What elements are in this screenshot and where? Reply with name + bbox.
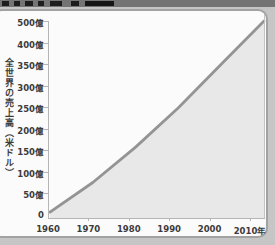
y-axis-tick — [44, 86, 48, 87]
x-axis-tick — [169, 218, 170, 221]
y-axis-tick — [44, 172, 48, 173]
y-axis-label: 0 — [14, 210, 44, 220]
y-axis-label: 150億 — [14, 145, 44, 157]
screenshot-stage: 全世界の売上高（米ドル） 500億400億350億300億250億200億150… — [0, 0, 275, 245]
y-axis-tick — [44, 150, 48, 151]
y-axis-label: 500億 — [14, 16, 44, 28]
x-axis-tick — [129, 218, 130, 221]
y-axis-label: 250億 — [14, 102, 44, 114]
clipped-header-strip — [0, 0, 275, 7]
y-axis-label: 100億 — [14, 167, 44, 179]
x-axis-label: 1980 — [109, 224, 149, 234]
y-axis-tick — [44, 21, 48, 22]
y-axis-tick — [44, 107, 48, 108]
y-axis-tick — [44, 64, 48, 65]
y-axis-label: 300億 — [14, 81, 44, 93]
x-axis-label: 1990 — [149, 224, 189, 234]
x-axis-tick — [250, 218, 251, 221]
y-axis-label: 350億 — [14, 59, 44, 71]
x-axis-label: 1960 — [28, 224, 68, 234]
y-axis-label: 50億 — [14, 188, 44, 200]
x-axis-label: 1970 — [68, 224, 108, 234]
x-axis-line — [48, 218, 265, 219]
x-axis-label: 2010年 — [230, 224, 270, 236]
y-axis-label: 200億 — [14, 124, 44, 136]
y-axis-tick — [44, 43, 48, 44]
y-axis-tick — [44, 193, 48, 194]
plot-right-border — [264, 14, 265, 218]
y-axis-label: 400億 — [14, 38, 44, 50]
y-axis-line — [48, 21, 49, 218]
y-axis-title: 全世界の売上高（米ドル） — [3, 58, 14, 198]
x-axis-tick — [210, 218, 211, 221]
y-axis-tick — [44, 129, 48, 130]
clipped-header-text-fragments — [0, 1, 118, 6]
x-axis-tick — [88, 218, 89, 221]
x-axis-label: 2000 — [190, 224, 230, 234]
